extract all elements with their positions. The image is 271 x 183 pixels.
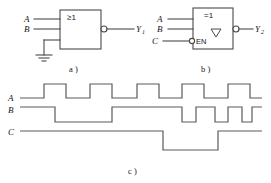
- gate-a-symbol: ≥1: [67, 13, 76, 22]
- figure-svg: ≥1 A B Y 1 a ) =1: [0, 0, 271, 183]
- timing-label-c: C: [8, 127, 15, 137]
- gate-b-label-b: B: [157, 24, 163, 34]
- caption-b: b ): [201, 64, 210, 74]
- gate-b-label-a: A: [156, 14, 163, 24]
- timing-label-b: B: [8, 105, 14, 115]
- ground-icon: [36, 55, 52, 61]
- gate-b-output-subscript: 2: [261, 29, 264, 35]
- gate-a-invert-bubble-icon: [101, 26, 107, 32]
- figure-container: ≥1 A B Y 1 a ) =1: [0, 0, 271, 183]
- open-collector-triangle-icon: [211, 29, 221, 37]
- gate-b-group: =1 EN A B C Y 2 b ): [152, 8, 264, 74]
- waveform-a-path: [20, 84, 262, 98]
- timing-diagram-group: A B C c ): [7, 84, 262, 176]
- timing-label-a: A: [7, 93, 14, 103]
- gate-b-label-c: C: [152, 36, 159, 46]
- gate-a-group: ≥1 A B Y 1 a ): [23, 10, 145, 74]
- gate-a-label-a: A: [23, 14, 30, 24]
- gate-b-enable-label: EN: [196, 37, 206, 46]
- caption-a: a ): [69, 64, 78, 74]
- gate-b-en-invert-bubble-icon: [189, 38, 194, 43]
- gate-a-label-b: B: [24, 24, 30, 34]
- gate-b-invert-bubble-icon: [233, 26, 239, 32]
- waveform-c-path: [20, 131, 262, 150]
- gate-a-output-subscript: 1: [142, 29, 145, 35]
- gate-b-symbol: =1: [204, 11, 214, 20]
- caption-c: c ): [128, 166, 137, 176]
- waveform-b-path: [20, 107, 262, 122]
